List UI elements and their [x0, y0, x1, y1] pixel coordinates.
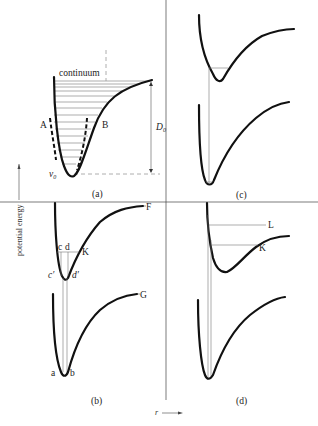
- label-G: G: [140, 290, 147, 300]
- panel-d: L K (d): [198, 203, 289, 407]
- panel-b: F G K c d c′ d′ a b (b): [48, 202, 151, 407]
- caption-b: (b): [91, 396, 102, 407]
- y-axis-label: potential energy: [15, 204, 24, 256]
- y-axis: potential energy: [15, 164, 24, 256]
- label-c-prime: c′: [48, 270, 55, 280]
- label-L: L: [268, 220, 274, 230]
- caption-d: (d): [236, 396, 247, 407]
- continuum-label: continuum: [59, 68, 100, 78]
- harmonic-dash-left: [50, 118, 56, 160]
- upper-curve: [199, 15, 294, 81]
- label-c: c: [58, 242, 62, 252]
- x-axis: r: [155, 408, 183, 417]
- label-b: b: [70, 368, 75, 378]
- label-K: K: [259, 243, 266, 253]
- label-K: K: [82, 247, 89, 257]
- panel-c: (c): [199, 15, 294, 201]
- potential-energy-diagram: continuum A B D0 v0 (a) potential energy…: [0, 0, 318, 426]
- label-d-prime: d′: [72, 270, 80, 280]
- panel-a: continuum A B D0 v0 (a): [40, 50, 166, 200]
- label-A: A: [40, 120, 47, 130]
- caption-c: (c): [236, 190, 247, 201]
- lower-curve-G: [53, 294, 137, 376]
- label-a: a: [51, 368, 56, 378]
- label-v0: v0: [49, 169, 56, 180]
- label-B: B: [102, 120, 108, 130]
- label-F: F: [146, 202, 151, 212]
- x-axis-label: r: [155, 408, 159, 417]
- label-d: d: [65, 242, 70, 252]
- caption-a: (a): [92, 189, 103, 200]
- label-D0: D0: [155, 122, 166, 133]
- upper-curve: [207, 203, 289, 272]
- lower-curve: [199, 102, 289, 185]
